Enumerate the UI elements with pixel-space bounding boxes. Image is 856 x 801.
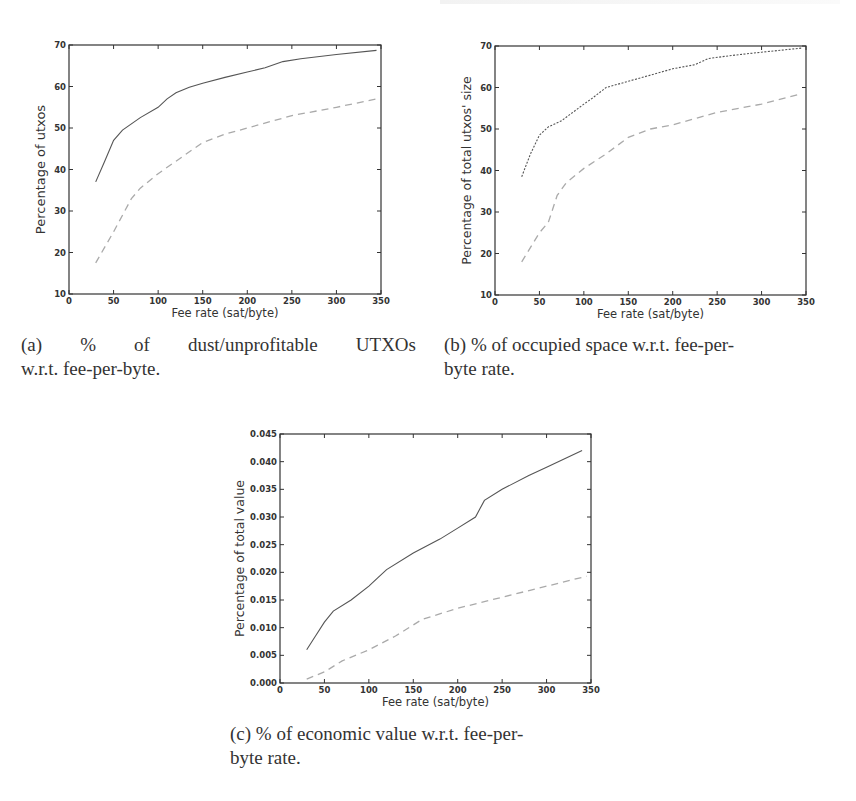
caption-c: (c) % of economic value w.r.t. fee-per- … bbox=[230, 722, 630, 770]
y-axis-label: Percentage of total value bbox=[232, 480, 247, 637]
y-tick-label: 0.040 bbox=[250, 457, 277, 467]
x-tick-label: 100 bbox=[360, 685, 378, 695]
x-tick-label: 50 bbox=[319, 685, 331, 695]
x-tick-label: 0 bbox=[277, 685, 283, 695]
y-tick-label: 0.035 bbox=[250, 484, 277, 494]
y-tick-label: 0.000 bbox=[250, 678, 277, 688]
y-tick-label: 0.015 bbox=[250, 595, 277, 605]
subfigure-c: 0501001502002503003500.0000.0050.0100.01… bbox=[0, 0, 856, 720]
caption-c-line-2: byte rate. bbox=[230, 746, 630, 770]
x-tick-label: 150 bbox=[404, 685, 422, 695]
y-tick-label: 0.045 bbox=[250, 429, 277, 439]
y-tick-label: 0.030 bbox=[250, 512, 277, 522]
y-tick-label: 0.025 bbox=[250, 540, 277, 550]
series-line-lower bbox=[307, 576, 587, 679]
series-line-upper bbox=[307, 451, 582, 650]
x-tick-label: 250 bbox=[493, 685, 511, 695]
chart-c: 0501001502002503003500.0000.0050.0100.01… bbox=[0, 0, 856, 720]
plot-frame bbox=[280, 434, 591, 683]
y-tick-label: 0.010 bbox=[250, 623, 277, 633]
x-tick-label: 350 bbox=[582, 685, 600, 695]
x-tick-label: 300 bbox=[538, 685, 556, 695]
x-tick-label: 200 bbox=[449, 685, 467, 695]
y-tick-label: 0.005 bbox=[250, 650, 277, 660]
y-tick-label: 0.020 bbox=[250, 567, 277, 577]
x-axis-label: Fee rate (sat/byte) bbox=[382, 695, 489, 709]
caption-c-line-1: (c) % of economic value w.r.t. fee-per- bbox=[230, 722, 630, 746]
